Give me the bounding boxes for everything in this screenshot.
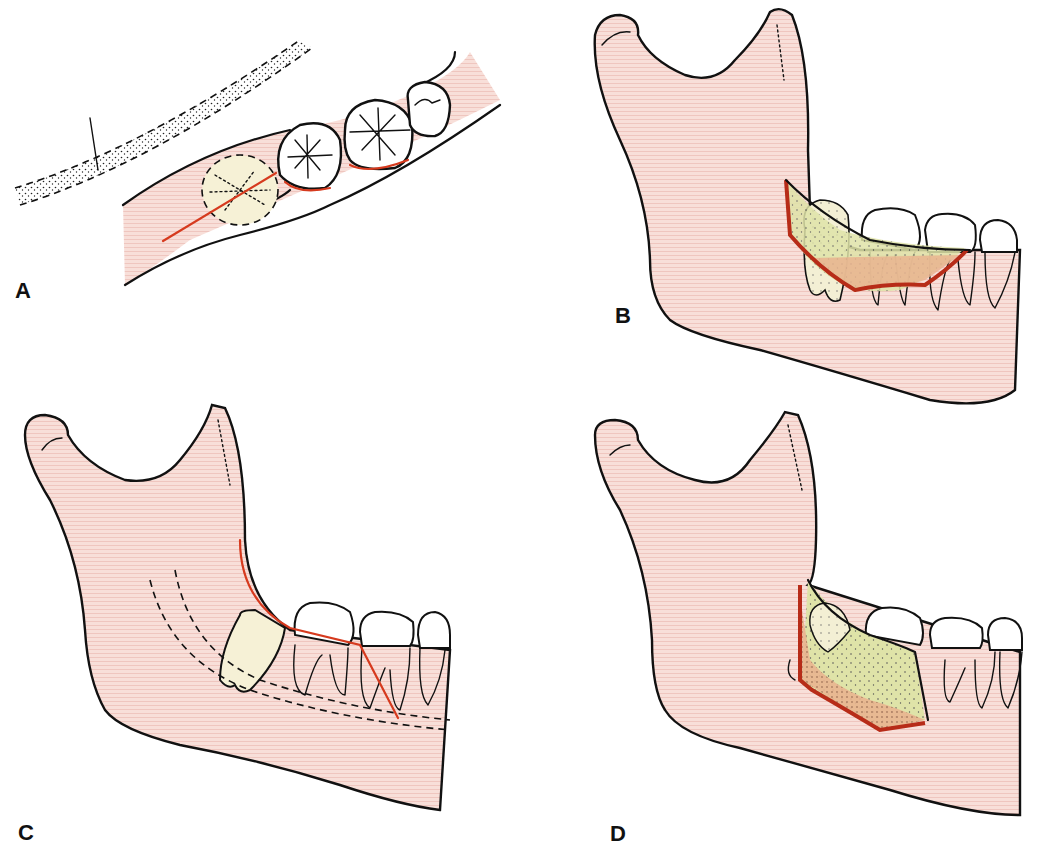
mandible-incision-illustration bbox=[0, 390, 520, 857]
panel-a: A bbox=[0, 0, 520, 320]
panel-c: C bbox=[0, 390, 520, 857]
molar-second bbox=[345, 100, 413, 169]
panel-label-b: B bbox=[615, 305, 631, 327]
mandible-lateral-illustration bbox=[570, 0, 1038, 420]
panel-label-a: A bbox=[15, 280, 31, 302]
panel-label-d: D bbox=[610, 823, 626, 845]
panel-label-c: C bbox=[18, 822, 34, 844]
occlusal-view-illustration bbox=[0, 0, 520, 320]
panel-b: B bbox=[570, 0, 1038, 420]
premolar bbox=[408, 82, 450, 136]
panel-d: D bbox=[570, 390, 1038, 857]
mandible-flap-reflected-illustration bbox=[570, 390, 1038, 857]
molar-first bbox=[278, 123, 341, 188]
